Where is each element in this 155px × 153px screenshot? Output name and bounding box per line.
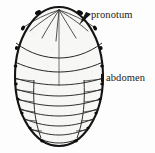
label-abdomen: abdomen bbox=[106, 72, 145, 83]
abdomen-leader-icon bbox=[101, 74, 104, 82]
insect-anatomy-figure: pronotum abdomen bbox=[0, 0, 155, 153]
label-pronotum: pronotum bbox=[91, 9, 133, 20]
